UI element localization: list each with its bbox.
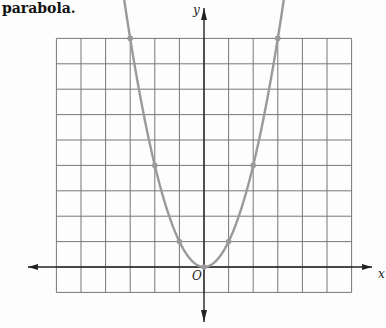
y-axis-up-arrow-icon [201, 8, 207, 20]
x-axis-label: x [378, 267, 385, 281]
data-point [127, 36, 133, 42]
data-point [152, 163, 158, 169]
origin-label: O [192, 269, 202, 283]
data-point [275, 36, 281, 42]
x-axis-right-arrow-icon [362, 264, 372, 270]
y-axis-label: y [192, 3, 200, 17]
data-point [201, 264, 207, 270]
y-axis-down-arrow-icon [201, 310, 207, 322]
data-point [177, 239, 183, 245]
x-axis-left-arrow-icon [28, 264, 38, 270]
data-point [250, 163, 256, 169]
parabola-plot: y x O [0, 0, 386, 328]
data-point [226, 239, 232, 245]
